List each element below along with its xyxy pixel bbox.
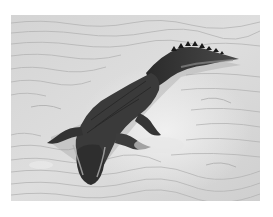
crocodile-photo <box>11 15 260 201</box>
photo-canvas <box>11 15 260 201</box>
